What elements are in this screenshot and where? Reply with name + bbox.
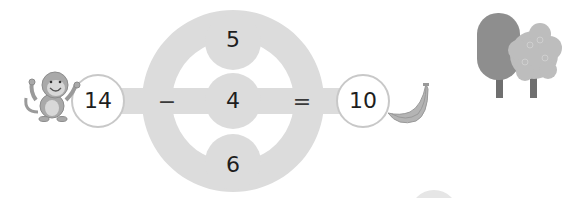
choice-top[interactable]: 5 xyxy=(226,29,240,51)
result-number: 10 xyxy=(349,90,377,112)
equals-operator: = xyxy=(293,89,311,114)
choice-middle[interactable]: 4 xyxy=(226,90,240,112)
start-number: 14 xyxy=(84,90,112,112)
choice-bottom[interactable]: 6 xyxy=(226,154,240,176)
minus-operator: − xyxy=(158,89,176,114)
